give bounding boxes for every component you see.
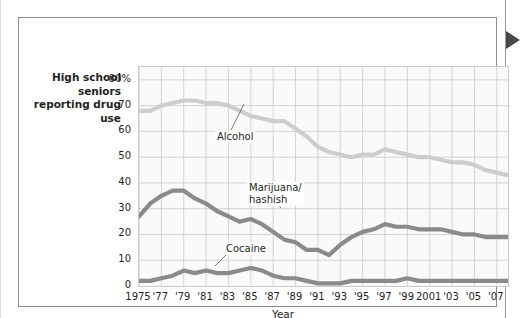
series-label-alcohol: Alcohol	[215, 131, 255, 143]
figure-frame: High school seniors reporting drug use A…	[18, 17, 497, 307]
y-tick-label: 40	[97, 176, 131, 187]
y-tick-label: 50	[97, 150, 131, 161]
chart-plot-area	[138, 66, 509, 287]
page-rule-left	[0, 0, 1, 318]
right-triangle-marker-icon	[506, 31, 520, 49]
series-label-cocaine: Cocaine	[224, 243, 268, 255]
chart-svg	[139, 67, 508, 286]
y-tick-label: 70	[97, 99, 131, 110]
series-line-alcohol	[139, 100, 508, 175]
x-tick-label: '07	[476, 291, 516, 302]
y-tick-label: 30	[97, 202, 131, 213]
y-tick-label: 80%	[97, 73, 131, 84]
series-label-marijuana: Marijuana/ hashish	[247, 182, 304, 206]
x-axis-title: Year	[19, 308, 528, 318]
series-line-marijuana-hashish	[139, 191, 508, 255]
y-tick-label: 60	[97, 124, 131, 135]
y-tick-label: 0	[97, 279, 131, 290]
y-tick-label: 10	[97, 253, 131, 264]
series-line-cocaine	[139, 268, 508, 283]
series-label-marijuana-line1: Marijuana/	[249, 182, 302, 193]
series-label-marijuana-line2: hashish	[249, 194, 287, 205]
y-tick-label: 20	[97, 227, 131, 238]
